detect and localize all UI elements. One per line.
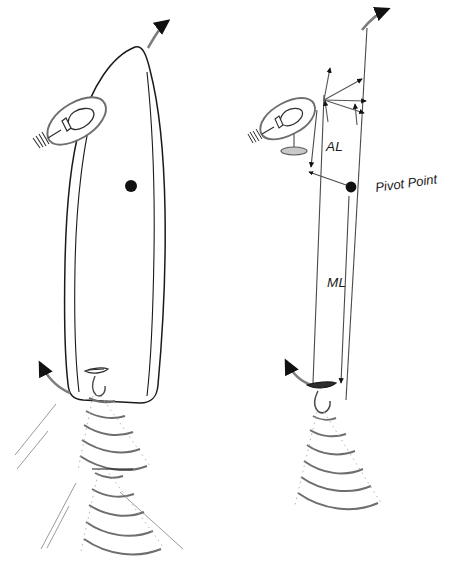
antenna-mast-disc xyxy=(281,147,307,155)
diagram-canvas: AL Pivot Point ML xyxy=(0,0,451,581)
pivot-point-dot xyxy=(125,180,137,192)
ml-label: ML xyxy=(327,275,346,290)
pivot-point-dot xyxy=(346,182,357,193)
technical-diagram: AL Pivot Point ML xyxy=(0,0,451,581)
al-label: AL xyxy=(325,139,343,154)
